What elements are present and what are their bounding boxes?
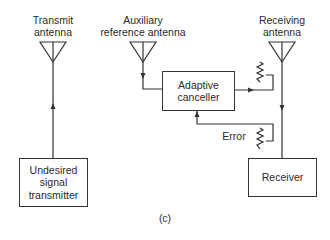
- canceller-line2: canceller: [177, 91, 219, 104]
- receiving-label-line2: antenna: [252, 26, 312, 38]
- auxiliary-label-line1: Auxiliary: [93, 14, 193, 26]
- canceller-output-line: [234, 75, 273, 90]
- adaptive-canceller-block: Adaptive canceller: [162, 71, 235, 111]
- receiving-antenna-icon: [269, 42, 295, 62]
- auxiliary-antenna-icon: [130, 42, 156, 62]
- arrow-up-transmit-icon: [51, 103, 56, 109]
- transmit-antenna-label: Transmit antenna: [23, 14, 83, 38]
- undesired-line1: Undesired: [29, 164, 79, 177]
- arrow-right-output-icon: [248, 88, 254, 93]
- undesired-line3: transmitter: [29, 189, 79, 202]
- canceller-line1: Adaptive: [177, 79, 219, 92]
- resistor-upper-icon: [257, 62, 263, 82]
- receiving-label-line1: Receiving: [252, 14, 312, 26]
- auxiliary-feed-line: [143, 62, 162, 89]
- error-signal-label: Error: [219, 130, 249, 142]
- receiver-line1: Receiver: [262, 171, 303, 184]
- arrow-down-receiving-icon: [280, 105, 285, 111]
- undesired-signal-transmitter-block: Undesired signal transmitter: [19, 158, 88, 207]
- undesired-line2: signal: [29, 176, 79, 189]
- receiver-block: Receiver: [248, 158, 317, 197]
- auxiliary-antenna-label: Auxiliary reference antenna: [93, 14, 193, 38]
- transmit-label-line1: Transmit: [23, 14, 83, 26]
- auxiliary-label-line2: reference antenna: [93, 26, 193, 38]
- arrow-up-error-icon: [195, 111, 200, 117]
- receiving-antenna-label: Receiving antenna: [252, 14, 312, 38]
- figure-caption: (c): [150, 212, 180, 224]
- resistor-lower-icon: [257, 128, 263, 149]
- transmit-label-line2: antenna: [23, 26, 83, 38]
- arrow-down-auxiliary-icon: [141, 73, 146, 79]
- transmit-antenna-icon: [40, 42, 66, 62]
